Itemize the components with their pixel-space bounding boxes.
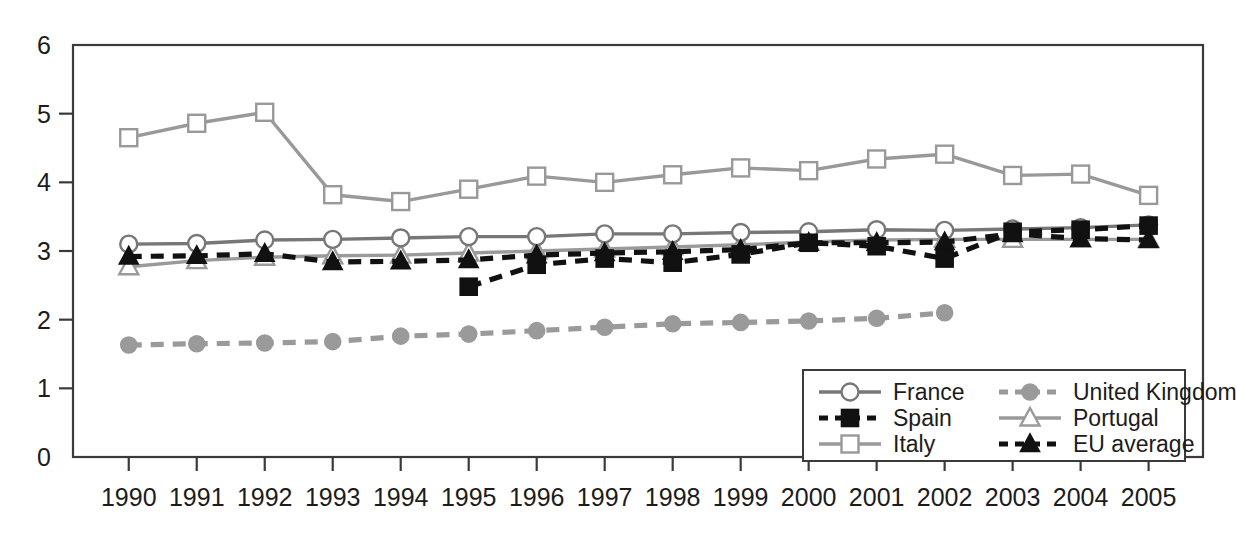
legend-label: Spain: [893, 405, 952, 431]
data-point-marker: [528, 168, 545, 185]
data-point-marker: [324, 231, 341, 248]
legend-label: France: [893, 379, 965, 405]
legend-label: Italy: [893, 431, 936, 457]
x-axis-tick-label: 1990: [101, 483, 157, 511]
data-point-marker: [596, 174, 613, 191]
y-axis-ticks: [59, 114, 73, 389]
data-point-marker: [733, 314, 749, 330]
data-point-marker: [664, 254, 681, 271]
legend-marker-sample: [842, 410, 859, 427]
data-point-marker: [597, 319, 613, 335]
x-axis-tick-label: 1991: [169, 483, 225, 511]
data-point-marker: [596, 225, 613, 242]
data-point-marker: [1072, 221, 1089, 238]
y-axis-tick-label: 5: [37, 100, 51, 128]
data-point-marker: [732, 246, 749, 263]
y-axis-tick-label: 6: [37, 31, 51, 59]
data-point-marker: [664, 166, 681, 183]
data-point-marker: [869, 310, 885, 326]
data-point-marker: [256, 104, 273, 121]
data-point-marker: [460, 228, 477, 245]
x-axis-tick-label: 2003: [985, 483, 1041, 511]
data-point-marker: [325, 334, 341, 350]
x-axis-tick-label: 1997: [577, 483, 633, 511]
x-axis-tick-label: 2001: [849, 483, 905, 511]
series-italy: [120, 104, 1157, 210]
data-point-marker: [460, 278, 477, 295]
data-point-marker: [1140, 187, 1157, 204]
data-point-marker: [392, 229, 409, 246]
legend-label: Portugal: [1073, 405, 1159, 431]
series-united-kingdom: [121, 305, 953, 353]
legend-label: United Kingdom: [1073, 379, 1236, 405]
x-axis-tick-label: 2000: [781, 483, 837, 511]
legend-marker-sample: [842, 436, 859, 453]
x-axis-tick-label: 1994: [373, 483, 429, 511]
data-point-marker: [665, 316, 681, 332]
data-point-marker: [121, 337, 137, 353]
data-point-marker: [188, 115, 205, 132]
data-point-marker: [732, 159, 749, 176]
data-point-marker: [936, 146, 953, 163]
data-point-marker: [529, 323, 545, 339]
data-point-marker: [1140, 217, 1157, 234]
data-point-marker: [528, 256, 545, 273]
data-point-marker: [461, 326, 477, 342]
x-axis-tick-label: 2002: [917, 483, 973, 511]
chart-legend: FranceSpainItalyUnited KingdomPortugalEU…: [803, 370, 1236, 461]
data-point-marker: [800, 162, 817, 179]
data-point-marker: [937, 305, 953, 321]
data-point-marker: [392, 193, 409, 210]
legend-label: EU average: [1073, 431, 1194, 457]
x-axis-labels: 1990199119921993199419951996199719981999…: [101, 483, 1176, 511]
data-point-marker: [460, 181, 477, 198]
x-axis-tick-label: 1993: [305, 483, 361, 511]
data-point-marker: [1004, 167, 1021, 184]
data-point-marker: [664, 225, 681, 242]
y-axis-tick-label: 0: [37, 443, 51, 471]
data-point-marker: [596, 250, 613, 267]
data-point-marker: [1004, 223, 1021, 240]
data-point-marker: [801, 313, 817, 329]
x-axis-tick-label: 1996: [509, 483, 565, 511]
data-point-marker: [936, 250, 953, 267]
chart-canvas: 0123456 19901991199219931994199519961997…: [0, 0, 1236, 538]
data-point-marker: [528, 228, 545, 245]
y-axis-tick-label: 1: [37, 374, 51, 402]
x-axis-tick-label: 2005: [1121, 483, 1177, 511]
data-point-marker: [324, 186, 341, 203]
data-point-marker: [1072, 166, 1089, 183]
data-point-marker: [257, 335, 273, 351]
series-line: [129, 112, 1149, 201]
data-series-layer: [119, 104, 1158, 353]
x-axis-tick-label: 2004: [1053, 483, 1109, 511]
y-axis-labels: 0123456: [37, 31, 51, 471]
legend-marker-sample: [842, 384, 859, 401]
x-axis-tick-label: 1998: [645, 483, 701, 511]
data-point-marker: [120, 129, 137, 146]
data-point-marker: [868, 238, 885, 255]
data-point-marker: [393, 328, 409, 344]
data-point-marker: [868, 150, 885, 167]
y-axis-tick-label: 4: [37, 168, 51, 196]
y-axis-tick-label: 3: [37, 237, 51, 265]
x-axis-tick-label: 1995: [441, 483, 497, 511]
y-axis-tick-label: 2: [37, 306, 51, 334]
x-axis-tick-label: 1992: [237, 483, 293, 511]
line-chart-figure: 0123456 19901991199219931994199519961997…: [0, 0, 1236, 538]
data-point-marker: [189, 336, 205, 352]
x-axis-tick-label: 1999: [713, 483, 769, 511]
legend-marker-sample: [1022, 384, 1038, 400]
data-point-marker: [800, 234, 817, 251]
